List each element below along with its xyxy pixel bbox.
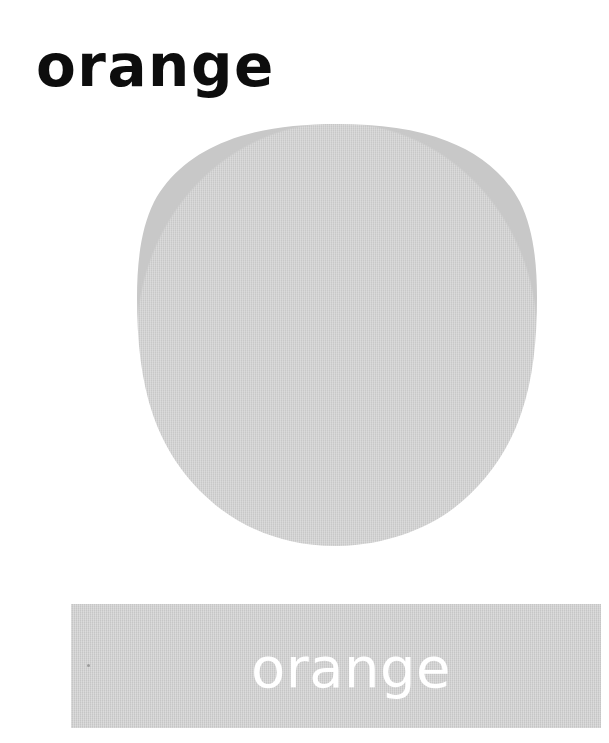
- orange-circle-icon: [136, 122, 538, 552]
- page-title: orange: [36, 33, 276, 99]
- color-swatch-band: orange: [71, 604, 601, 728]
- flashcard-root: orange orange: [0, 0, 609, 743]
- color-name-label: orange: [71, 637, 601, 699]
- orange-fruit-illustration: [136, 122, 538, 552]
